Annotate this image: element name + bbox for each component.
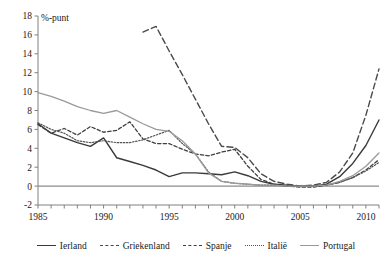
svg-text:2005: 2005	[291, 212, 310, 222]
legend-swatch-portugal	[300, 242, 319, 250]
legend-item-ierland: Ierland	[37, 241, 87, 251]
svg-text:16: 16	[23, 30, 33, 40]
svg-text:10: 10	[23, 87, 33, 97]
legend-swatch-griekenland	[100, 242, 119, 250]
svg-text:2000: 2000	[225, 212, 244, 222]
y-axis: -2024681012141618	[23, 11, 39, 210]
svg-text:2: 2	[27, 163, 32, 173]
legend-swatch-italie	[245, 242, 264, 250]
x-axis: 198519901995200020052010	[29, 205, 380, 222]
legend-item-spanje: Spanje	[183, 241, 232, 251]
svg-text:1990: 1990	[94, 212, 113, 222]
svg-text:8: 8	[27, 106, 32, 116]
legend-label-spanje: Spanje	[206, 241, 232, 251]
series-line-spanje	[38, 122, 379, 187]
series-line-portugal	[38, 93, 379, 187]
legend-label-griekenland: Griekenland	[123, 241, 170, 251]
svg-text:2010: 2010	[356, 212, 375, 222]
chart-plot-area: -2024681012141618 1985199019952000200520…	[0, 0, 392, 236]
data-series-group	[38, 26, 379, 187]
series-line-ierland	[38, 120, 379, 186]
legend-item-griekenland: Griekenland	[100, 241, 170, 251]
y-axis-unit-label: %-punt	[41, 13, 69, 23]
svg-text:4: 4	[27, 144, 32, 154]
svg-text:6: 6	[27, 125, 32, 135]
legend-swatch-ierland	[37, 242, 56, 250]
svg-text:12: 12	[23, 68, 33, 78]
chart-legend: Ierland Griekenland Spanje Italië Portug…	[0, 236, 392, 256]
legend-label-ierland: Ierland	[60, 241, 87, 251]
legend-swatch-spanje	[183, 242, 202, 250]
legend-label-italie: Italië	[268, 241, 288, 251]
svg-text:1985: 1985	[29, 212, 48, 222]
legend-item-portugal: Portugal	[300, 241, 355, 251]
svg-text:-2: -2	[24, 200, 32, 210]
line-chart: -2024681012141618 1985199019952000200520…	[0, 0, 392, 262]
svg-text:0: 0	[27, 182, 32, 192]
series-line-itali	[38, 123, 379, 186]
series-line-griekenland	[143, 26, 379, 186]
svg-text:14: 14	[23, 49, 33, 59]
svg-text:1995: 1995	[160, 212, 179, 222]
svg-text:18: 18	[23, 11, 33, 21]
legend-item-italie: Italië	[245, 241, 288, 251]
legend-label-portugal: Portugal	[323, 241, 355, 251]
